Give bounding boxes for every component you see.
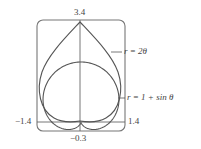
polar-plot — [0, 0, 201, 149]
viewing-frame — [37, 20, 125, 131]
tick-label-right: 1.4 — [128, 117, 139, 126]
legend-r-2theta: r = 2θ — [124, 47, 147, 56]
tick-label-bottom: −0.3 — [70, 134, 86, 143]
tick-label-top: 3.4 — [74, 8, 85, 17]
tick-label-left: −1.4 — [15, 117, 31, 126]
legend-r-1-plus-sin-theta: r = 1 + sin θ — [127, 93, 173, 102]
curve-r-1-plus-sin-theta — [43, 62, 119, 130]
